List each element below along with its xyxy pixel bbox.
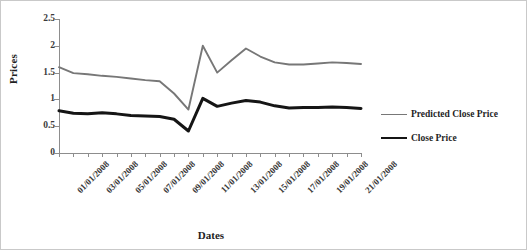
- legend-item-predicted-close-price: Predicted Close Price: [381, 109, 526, 119]
- x-tick-mark: [188, 153, 189, 157]
- x-tick-mark: [102, 153, 103, 157]
- x-tick-mark: [174, 153, 175, 157]
- x-tick-mark: [361, 153, 362, 157]
- x-tick-mark: [160, 153, 161, 157]
- chart-legend: Predicted Close Price Close Price: [381, 109, 526, 157]
- y-tick-mark: [54, 73, 59, 74]
- x-tick-mark: [347, 153, 348, 157]
- y-tick-mark: [54, 126, 59, 127]
- plot-area: [59, 19, 361, 153]
- x-tick-mark: [275, 153, 276, 157]
- y-tick-mark: [54, 99, 59, 100]
- series-line: [59, 46, 361, 110]
- x-tick-mark: [59, 153, 60, 157]
- y-tick-mark: [54, 46, 59, 47]
- x-tick-mark: [232, 153, 233, 157]
- x-tick-mark: [117, 153, 118, 157]
- x-tick-mark: [73, 153, 74, 157]
- x-tick-mark: [246, 153, 247, 157]
- legend-label-predicted-close-price: Predicted Close Price: [411, 109, 498, 119]
- x-tick-mark: [131, 153, 132, 157]
- x-tick-mark: [217, 153, 218, 157]
- x-tick-mark: [145, 153, 146, 157]
- y-tick-mark: [54, 19, 59, 20]
- x-tick-mark: [289, 153, 290, 157]
- series-line: [59, 98, 361, 131]
- legend-swatch-predicted-close-price: [381, 114, 407, 115]
- legend-label-close-price: Close Price: [411, 133, 457, 143]
- legend-item-close-price: Close Price: [381, 133, 526, 143]
- x-tick-mark: [318, 153, 319, 157]
- x-tick-mark: [260, 153, 261, 157]
- x-tick-mark: [332, 153, 333, 157]
- series-lines: [59, 19, 361, 153]
- chart-figure: Prices Dates 00.511.522.5 01/01/200803/0…: [0, 0, 527, 250]
- legend-swatch-close-price: [381, 137, 407, 139]
- x-tick-mark: [303, 153, 304, 157]
- x-tick-mark: [203, 153, 204, 157]
- x-tick-mark: [88, 153, 89, 157]
